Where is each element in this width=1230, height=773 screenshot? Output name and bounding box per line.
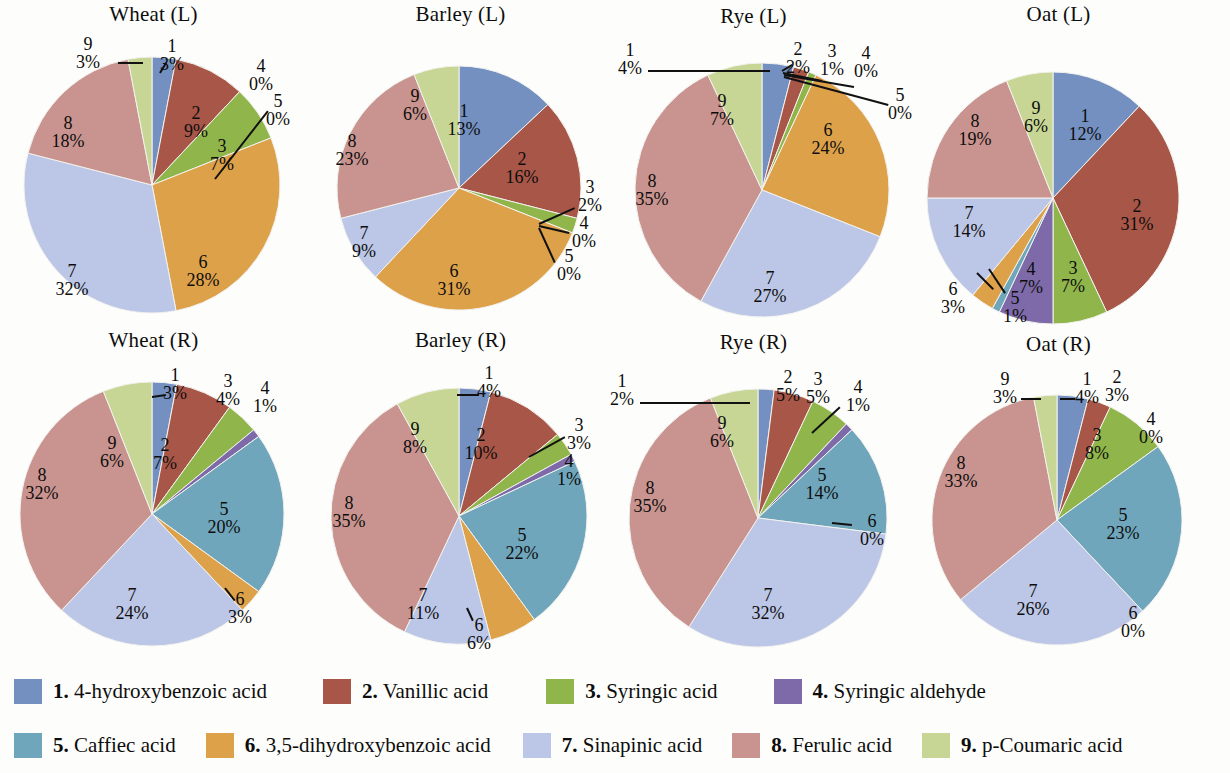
pie-chart-grid: Wheat (L)13%29%37%40%50%628%732%818%93%B…: [0, 0, 1230, 665]
pie-label-id: 7: [352, 224, 376, 242]
leader-line: [1021, 398, 1041, 400]
pie-label-id: 3: [578, 178, 602, 196]
pie-label-id: 6: [860, 512, 884, 530]
pie-label-id: 7: [1017, 582, 1050, 600]
pie-label-value: 27%: [754, 287, 787, 305]
pie-label-value: 4%: [216, 390, 240, 408]
pie-label-7: 714%: [953, 204, 986, 241]
pie-label-5: 50%: [557, 247, 581, 284]
pie-label-id: 7: [752, 586, 785, 604]
pie-label-value: 3%: [76, 53, 100, 71]
pie-label-3: 37%: [1061, 259, 1085, 296]
pie-label-id: 9: [710, 92, 734, 110]
pie-label-id: 5: [266, 92, 290, 110]
legend-item-2: 2. Vanillic acid: [323, 679, 488, 704]
pie-label-id: 2: [786, 40, 810, 58]
pie-label-id: 3: [820, 42, 844, 60]
pie-label-value: 0%: [1121, 622, 1145, 640]
pie-label-2: 25%: [776, 368, 800, 405]
pie-label-4: 40%: [572, 214, 596, 251]
pie-label-2: 27%: [153, 436, 177, 473]
pie-label-5: 520%: [208, 500, 241, 537]
pie-label-id: 6: [1121, 604, 1145, 622]
pie-label-value: 26%: [1017, 600, 1050, 618]
leader-line: [640, 402, 750, 404]
legend-item-1: 1. 4-hydroxybenzoic acid: [14, 679, 267, 704]
pie-label-1: 13%: [160, 37, 184, 74]
pie-label-value: 4%: [477, 382, 501, 400]
pie-label-4: 41%: [253, 379, 277, 416]
pie-label-9: 96%: [403, 87, 427, 124]
pie-label-id: 6: [228, 590, 252, 608]
pie-chart-oat-l: Oat (L)112%231%37%47%51%63%714%819%96%: [905, 0, 1212, 332]
pie-label-2: 210%: [465, 426, 498, 463]
pie-label-id: 2: [1105, 368, 1129, 386]
legend-index-8: 8.: [771, 733, 787, 757]
legend-swatch-6: [206, 733, 234, 758]
pie-label-5: 523%: [1107, 506, 1140, 543]
legend-item-5: 5. Caffiec acid: [14, 733, 176, 758]
pie-label-value: 1%: [253, 397, 277, 415]
pie-chart-wheat-l: Wheat (L)13%29%37%40%50%628%732%818%93%: [0, 0, 307, 332]
pie-label-value: 19%: [959, 130, 992, 148]
pie-label-4: 41%: [846, 378, 870, 415]
pie-label-8: 832%: [26, 466, 59, 503]
legend-swatch-3: [546, 679, 574, 704]
pie-label-value: 3%: [567, 434, 591, 452]
pie-label-id: 4: [854, 44, 878, 62]
pie-label-id: 4: [1139, 410, 1163, 428]
legend-label-9: 9. p-Coumaric acid: [961, 733, 1123, 758]
pie-chart-rye-r: Rye (R)12%25%35%41%514%60%732%835%96%: [600, 332, 907, 664]
pie-label-id: 9: [76, 35, 100, 53]
pie-label-value: 23%: [1107, 524, 1140, 542]
pie-label-id: 7: [56, 262, 89, 280]
pie-label-8: 835%: [333, 494, 366, 531]
pie-label-id: 4: [249, 57, 273, 75]
legend-index-7: 7.: [562, 733, 578, 757]
legend-item-4: 4. Syringic aldehyde: [774, 679, 986, 704]
pie-label-6: 628%: [187, 253, 220, 290]
pie-label-3: 34%: [216, 372, 240, 409]
pie-label-value: 6%: [467, 634, 491, 652]
pie-label-value: 10%: [465, 444, 498, 462]
pie-label-id: 4: [557, 452, 581, 470]
pie-label-value: 14%: [953, 222, 986, 240]
pie-label-2: 231%: [1121, 197, 1154, 234]
pie-label-value: 28%: [187, 271, 220, 289]
legend-swatch-9: [922, 733, 950, 758]
pie-label-value: 7%: [153, 454, 177, 472]
pie-label-id: 7: [116, 586, 149, 604]
pie-label-6: 66%: [467, 616, 491, 653]
pie-label-id: 8: [634, 479, 667, 497]
pie-chart-rye-l: Rye (L)14%22%31%40%50%624%727%835%97%: [600, 0, 907, 332]
legend-index-1: 1.: [53, 679, 69, 703]
pie-label-id: 1: [448, 102, 481, 120]
pie-label-id: 4: [846, 378, 870, 396]
legend-row-2: 5. Caffiec acid6. 3,5-dihydroxybenzoic a…: [14, 728, 1123, 762]
pie-label-id: 2: [1121, 197, 1154, 215]
pie-label-9: 96%: [710, 414, 734, 451]
legend-swatch-2: [323, 679, 351, 704]
pie-label-2: 23%: [1105, 368, 1129, 405]
pie-label-value: 33%: [945, 472, 978, 490]
leader-line: [118, 62, 143, 64]
pie-label-6: 631%: [438, 262, 471, 299]
pie-label-id: 3: [216, 372, 240, 390]
legend-item-9: 9. p-Coumaric acid: [922, 733, 1123, 758]
legend-label-3: 3. Syringic acid: [585, 679, 717, 704]
pie-label-id: 6: [467, 616, 491, 634]
pie-label-id: 5: [557, 247, 581, 265]
pie-label-id: 2: [153, 436, 177, 454]
pie-label-id: 3: [806, 370, 830, 388]
pie-label-value: 1%: [1003, 307, 1027, 325]
pie-label-id: 8: [26, 466, 59, 484]
pie-label-3: 35%: [806, 370, 830, 407]
leader-line: [648, 70, 770, 72]
pie-chart-barley-l: Barley (L)113%216%32%40%50%631%79%823%96…: [307, 0, 614, 332]
pie-label-value: 4%: [618, 59, 642, 77]
pie-label-value: 0%: [1139, 428, 1163, 446]
pie-label-id: 1: [163, 366, 187, 384]
pie-label-value: 0%: [854, 62, 878, 80]
pie-label-id: 6: [187, 253, 220, 271]
pie-label-value: 2%: [610, 390, 634, 408]
